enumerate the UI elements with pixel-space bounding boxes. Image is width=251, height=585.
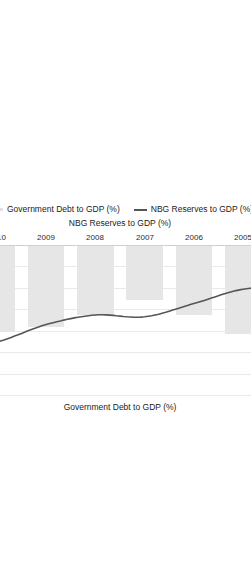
legend-item-nbg-reserves[interactable]: NBG Reserves to GDP (%) xyxy=(134,204,251,214)
legend-line-swatch-icon xyxy=(134,209,147,211)
chart-root: Government Debt to GDP (%) NBG Reserves … xyxy=(0,0,251,585)
line-series-nbg-reserves xyxy=(0,246,251,396)
axis-title-nbg-reserves: NBG Reserves to GDP (%) xyxy=(60,218,180,228)
tick-year-2008: 2008 xyxy=(80,233,110,242)
tick-year-2005: 2005 xyxy=(228,233,251,242)
tick-year-2010: 2010 xyxy=(0,233,12,242)
legend-label: NBG Reserves to GDP (%) xyxy=(151,204,251,214)
legend-label: Government Debt to GDP (%) xyxy=(7,204,120,214)
tick-year-2006: 2006 xyxy=(179,233,209,242)
axis-title-government-debt: Government Debt to GDP (%) xyxy=(60,402,180,412)
chart-legend: Government Debt to GDP (%)NBG Reserves t… xyxy=(0,204,250,214)
legend-item-government-debt[interactable]: Government Debt to GDP (%) xyxy=(0,204,120,214)
tick-year-2009: 2009 xyxy=(31,233,61,242)
plot-area: 6334.84.918.1 xyxy=(0,246,251,396)
chart-figure: Government Debt to GDP (%) NBG Reserves … xyxy=(0,167,251,418)
legend-bar-swatch-icon xyxy=(0,208,3,211)
tick-year-2007: 2007 xyxy=(130,233,160,242)
